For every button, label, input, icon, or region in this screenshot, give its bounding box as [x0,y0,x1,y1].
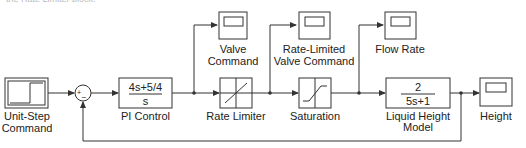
rate-limited-label-2: Valve Command [274,55,355,67]
flow-rate-label: Flow Rate [375,43,425,55]
pi-control-block[interactable]: 4s+5/4 s [119,78,172,108]
valve-command-scope[interactable] [219,12,247,39]
scope-screen-icon [224,17,243,26]
liquid-height-label-2: Model [403,121,433,133]
valve-command-label-1: Valve [220,43,247,55]
plant-numerator: 2 [415,81,421,93]
unit-step-label-2: Command [2,122,53,134]
rate-limiter-block[interactable] [220,78,252,108]
unit-step-block[interactable] [5,78,48,108]
flow-rate-scope[interactable] [385,12,416,39]
caption-text: the Rate Limiter block. [6,0,96,4]
sum-plus-sign: + [77,89,81,96]
scope-screen-icon [391,17,410,26]
block-diagram: the Rate Limiter block. Unit-Step Comman… [0,0,526,148]
sum-block[interactable]: + − [75,85,91,102]
pi-numerator: 4s+5/4 [129,81,162,93]
pi-denominator: s [143,95,149,107]
rate-limiter-label: Rate Limiter [206,110,266,122]
saturation-label: Saturation [290,110,340,122]
saturation-block[interactable] [299,78,331,108]
signal-to-flow-rate-scope [359,25,383,93]
sum-minus-sign: − [82,93,87,102]
height-scope[interactable] [480,78,512,106]
unit-step-label-1: Unit-Step [4,110,50,122]
rate-limited-label-1: Rate-Limited [283,43,345,55]
plant-denominator: 5s+1 [406,95,430,107]
pi-control-label: PI Control [121,110,170,122]
scope-screen-icon [486,83,506,92]
liquid-height-model-block[interactable]: 2 5s+1 [386,78,450,108]
scope-screen-icon [305,17,324,26]
height-label: Height [480,110,512,122]
valve-command-label-2: Command [208,55,259,67]
rate-limited-valve-command-scope[interactable] [299,12,330,39]
